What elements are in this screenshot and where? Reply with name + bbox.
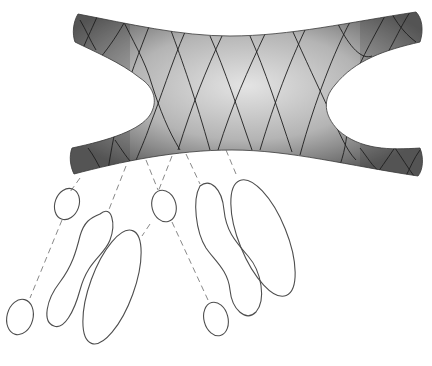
connector-8	[186, 154, 200, 184]
loop-4	[71, 223, 153, 351]
connector-7	[172, 222, 208, 300]
connector-4	[146, 160, 158, 190]
saddle-surface-diagram	[0, 0, 432, 366]
cross-section-loops	[3, 172, 309, 351]
connector-9	[226, 150, 236, 174]
loop-3	[47, 211, 113, 326]
diagram-canvas	[0, 0, 432, 366]
loop-8	[218, 172, 309, 305]
loop-2	[3, 296, 37, 338]
connector-3	[108, 166, 126, 212]
dashed-connectors	[30, 150, 236, 300]
loop-6	[200, 299, 232, 338]
connector-6	[142, 224, 150, 236]
loop-5	[148, 187, 179, 224]
connector-5	[158, 156, 172, 192]
saddle-surface	[60, 0, 430, 190]
loop-1	[50, 185, 83, 223]
